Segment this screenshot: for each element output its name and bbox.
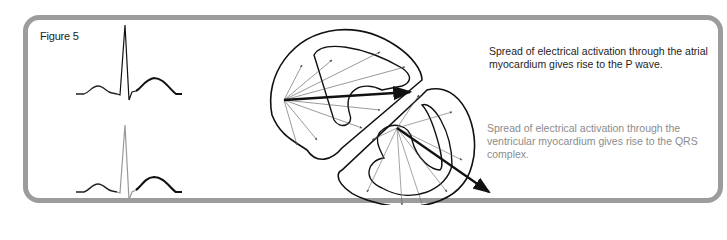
ecg-trace-qrs-highlight xyxy=(70,118,190,208)
caption-atrial-p-wave: Spread of electrical activation through … xyxy=(489,45,727,71)
caption-ventricular-qrs: Spread of electrical activation through … xyxy=(487,122,727,161)
ecg-trace-p-wave-highlight xyxy=(70,22,190,112)
heart-activation-diagram xyxy=(262,20,492,205)
